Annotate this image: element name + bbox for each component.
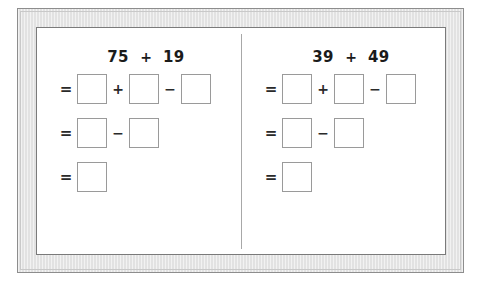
answer-box[interactable]: [129, 74, 159, 104]
answer-box[interactable]: [282, 74, 312, 104]
answer-box[interactable]: [129, 118, 159, 148]
answer-box[interactable]: [282, 162, 312, 192]
plus-operator: +: [107, 82, 129, 96]
plus-operator: +: [312, 82, 334, 96]
worksheet-screen: 75 + 19 = + − =: [0, 0, 482, 281]
equals-sign: =: [55, 82, 77, 97]
picture-frame-outer: 75 + 19 = + − =: [17, 8, 464, 273]
answer-box[interactable]: [77, 118, 107, 148]
equals-sign: =: [55, 170, 77, 185]
worksheet-sheet: 75 + 19 = + − =: [37, 28, 445, 254]
equals-sign: =: [260, 82, 282, 97]
answer-box[interactable]: [334, 118, 364, 148]
worksheet-content-area: 75 + 19 = + − =: [36, 27, 446, 255]
answer-box[interactable]: [77, 74, 107, 104]
equals-sign: =: [55, 126, 77, 141]
answer-box[interactable]: [181, 74, 211, 104]
minus-operator: −: [159, 82, 181, 96]
minus-operator: −: [312, 126, 334, 140]
equation-row: = −: [242, 117, 446, 149]
equation-row: = + −: [242, 73, 446, 105]
answer-box[interactable]: [77, 162, 107, 192]
equals-sign: =: [260, 170, 282, 185]
problem-right: 39 + 49 = + − =: [242, 28, 446, 254]
first-term: 39: [312, 48, 334, 66]
equals-sign: =: [260, 126, 282, 141]
first-term: 75: [107, 48, 129, 66]
problem-left-heading: 75 + 19: [37, 48, 241, 66]
heading-plus-operator: +: [140, 49, 152, 65]
minus-operator: −: [364, 82, 386, 96]
second-term: 49: [368, 48, 390, 66]
minus-operator: −: [107, 126, 129, 140]
answer-box[interactable]: [386, 74, 416, 104]
equation-row: = −: [37, 117, 241, 149]
second-term: 19: [163, 48, 185, 66]
answer-box[interactable]: [282, 118, 312, 148]
problem-left: 75 + 19 = + − =: [37, 28, 241, 254]
equation-row: =: [37, 161, 241, 193]
equation-row: =: [242, 161, 446, 193]
problem-right-heading: 39 + 49: [242, 48, 446, 66]
equation-row: = + −: [37, 73, 241, 105]
heading-plus-operator: +: [345, 49, 357, 65]
answer-box[interactable]: [334, 74, 364, 104]
